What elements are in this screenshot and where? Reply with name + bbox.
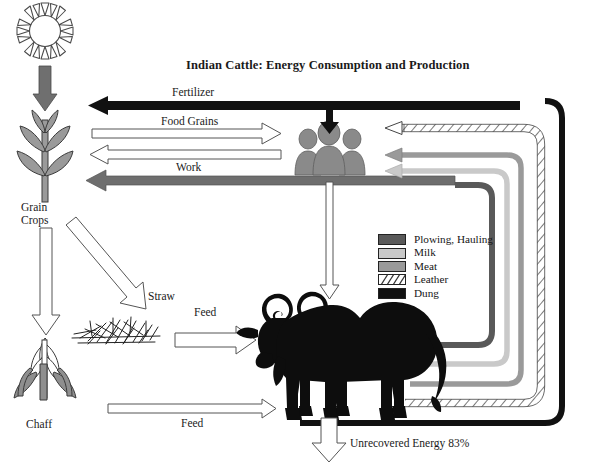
grain-crops-label-line2: Crops: [21, 214, 48, 227]
work-label: Work: [176, 161, 201, 173]
grain-crops-label-line1: Grain: [21, 201, 47, 214]
legend-item: Meat: [378, 260, 493, 273]
straw-arrow: [66, 217, 146, 309]
chaff-arrow: [32, 228, 60, 335]
people-to-cow-arrow: [320, 182, 339, 299]
legend-item: Milk: [378, 246, 493, 259]
legend-item: Leather: [378, 273, 493, 286]
diagram-canvas: Indian Cattle: Energy Consumption and Pr…: [0, 0, 593, 475]
chaff-icon: [14, 338, 76, 400]
page-title: Indian Cattle: Energy Consumption and Pr…: [186, 58, 469, 73]
legend-swatch-leather: [378, 274, 406, 285]
legend: Plowing, Hauling Milk Meat Leather: [378, 233, 493, 300]
legend-swatch-milk: [378, 248, 406, 259]
chaff-label: Chaff: [26, 418, 52, 431]
feed-chaff-arrow: [108, 399, 276, 418]
fertilizer-label: Fertilizer: [172, 86, 214, 98]
straw-label: Straw: [148, 290, 175, 302]
sun-icon: [17, 3, 73, 59]
feed-chaff-label: Feed: [181, 417, 203, 429]
feed-straw-label: Feed: [194, 306, 216, 318]
legend-item: Plowing, Hauling: [378, 233, 493, 246]
grain-crops-icon: [17, 110, 73, 202]
hatch-pattern-icon: [379, 275, 405, 284]
legend-label-meat: Meat: [414, 261, 437, 272]
legend-label-plowing-hauling: Plowing, Hauling: [414, 234, 493, 245]
legend-swatch-plowing-hauling: [378, 234, 406, 245]
legend-item: Dung: [378, 287, 493, 300]
legend-label-dung: Dung: [414, 288, 439, 299]
sunlight-arrow: [33, 66, 57, 111]
unrecovered-energy-label: Unrecovered Energy 83%: [350, 437, 469, 449]
legend-label-leather: Leather: [414, 274, 448, 285]
food-grains-label: Food Grains: [161, 115, 218, 127]
fertilizer-arrow: [88, 96, 520, 115]
legend-label-milk: Milk: [414, 247, 436, 258]
legend-swatch-dung: [378, 288, 406, 299]
straw-pile-icon: [72, 317, 160, 344]
legend-swatch-meat: [378, 261, 406, 272]
